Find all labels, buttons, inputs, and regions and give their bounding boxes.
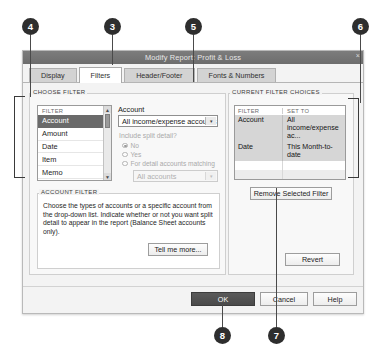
- dialog-footer: OK Cancel Help: [23, 286, 363, 313]
- tab-filters-label: Filters: [91, 71, 111, 80]
- leader-line-6: [360, 35, 361, 103]
- filter-list-item-amount[interactable]: Amount: [38, 128, 111, 141]
- callout-marker-4: 4: [22, 18, 39, 35]
- cancel-button[interactable]: Cancel: [260, 292, 308, 306]
- all-accounts-value: All accounts: [137, 172, 176, 181]
- scroll-down-icon[interactable]: ▼: [104, 173, 111, 180]
- tab-display-label: Display: [41, 71, 65, 80]
- all-accounts-dropdown[interactable]: All accounts ▾: [133, 170, 218, 182]
- radio-split-no-label: No: [131, 142, 139, 149]
- radio-split-yes-label: Yes: [131, 151, 142, 158]
- radio-button-icon[interactable]: [122, 161, 128, 167]
- bracket-filter-list: [14, 96, 25, 178]
- row-filter-name: Account: [235, 115, 282, 142]
- account-dropdown-value: All income/expense accounts: [122, 117, 217, 126]
- tell-me-more-button[interactable]: Tell me more...: [148, 243, 208, 256]
- tab-header-footer[interactable]: Header/Footer: [124, 68, 194, 82]
- modify-report-dialog: Modify Report: Profit & Loss × Display F…: [22, 50, 364, 314]
- filter-list-item-item[interactable]: Item: [38, 153, 111, 166]
- account-filter-help-text: Choose the types of accounts or a specif…: [43, 202, 213, 236]
- tab-fonts-numbers[interactable]: Fonts & Numbers: [197, 68, 277, 82]
- chevron-down-icon[interactable]: ▾: [205, 117, 216, 125]
- tab-filters[interactable]: Filters: [79, 67, 123, 83]
- screenshot-root: 4 3 5 6 8 7 Modify Report: Profit & Loss…: [0, 0, 381, 356]
- callout-marker-3: 3: [104, 18, 121, 35]
- tab-fonts-numbers-label: Fonts & Numbers: [209, 71, 265, 80]
- callout-marker-5: 5: [185, 18, 202, 35]
- callout-marker-7: 7: [268, 327, 285, 344]
- filter-list[interactable]: FILTER Account Amount Date Item Memo ▲ ▼: [37, 105, 112, 181]
- leader-line-7: [276, 188, 277, 327]
- radio-button-icon[interactable]: [122, 152, 128, 158]
- choose-filter-group-label: CHOOSE FILTER: [31, 89, 87, 95]
- leader-line-4: [30, 35, 31, 97]
- filter-list-item-account[interactable]: Account: [38, 115, 111, 128]
- table-row[interactable]: Account All income/expense ac...: [235, 115, 345, 142]
- scrollbar-thumb[interactable]: [105, 114, 110, 128]
- ok-button[interactable]: OK: [191, 292, 255, 306]
- radio-split-no[interactable]: No: [122, 142, 139, 149]
- revert-button[interactable]: Revert: [285, 253, 340, 266]
- table-header-row: FILTER SET TO: [235, 106, 345, 115]
- column-header-set-to: SET TO: [282, 108, 345, 114]
- remove-selected-filter-button[interactable]: Remove Selected Filter: [250, 187, 332, 200]
- row-set-to-value: All income/expense ac...: [282, 115, 345, 142]
- leader-line-8: [222, 303, 223, 327]
- help-button[interactable]: Help: [313, 292, 357, 306]
- row-set-to-value: This Month-to-date: [282, 142, 345, 161]
- table-row[interactable]: Date This Month-to-date: [235, 142, 345, 161]
- radio-split-yes[interactable]: Yes: [122, 151, 141, 158]
- filter-list-header: FILTER: [38, 106, 111, 115]
- callout-marker-8: 8: [214, 327, 231, 344]
- current-filter-choices-label: CURRENT FILTER CHOICES: [230, 89, 322, 95]
- filter-list-scrollbar[interactable]: ▲ ▼: [103, 106, 111, 180]
- table-empty-row: [235, 161, 345, 170]
- account-filter-group-label: ACCOUNT FILTER: [39, 189, 99, 195]
- callout-marker-6: 6: [352, 18, 369, 35]
- radio-split-detail-matching[interactable]: For detail accounts matching: [122, 160, 215, 167]
- bracket-filter-choices: [348, 98, 359, 178]
- filter-list-item-date[interactable]: Date: [38, 141, 111, 154]
- radio-button-icon[interactable]: [122, 143, 128, 149]
- split-detail-question: Include split detail?: [119, 132, 177, 139]
- leader-line-5: [193, 35, 194, 82]
- filter-list-item-memo[interactable]: Memo: [38, 166, 111, 179]
- account-dropdown[interactable]: All income/expense accounts ▾: [118, 115, 218, 127]
- table-empty-row: [235, 170, 345, 179]
- radio-split-detail-label: For detail accounts matching: [131, 160, 215, 167]
- leader-line-3: [112, 35, 113, 65]
- tab-display[interactable]: Display: [29, 68, 77, 82]
- dialog-content: CHOOSE FILTER FILTER Account Amount Date…: [23, 83, 363, 313]
- current-filter-choices-table[interactable]: FILTER SET TO Account All income/expense…: [234, 105, 346, 180]
- account-field-label: Account: [118, 105, 144, 114]
- tab-header-footer-label: Header/Footer: [136, 71, 182, 80]
- column-header-filter: FILTER: [235, 108, 282, 114]
- chevron-down-icon[interactable]: ▾: [205, 172, 216, 180]
- scroll-up-icon[interactable]: ▲: [104, 106, 111, 113]
- table-empty-row: [235, 179, 345, 180]
- row-filter-name: Date: [235, 142, 282, 161]
